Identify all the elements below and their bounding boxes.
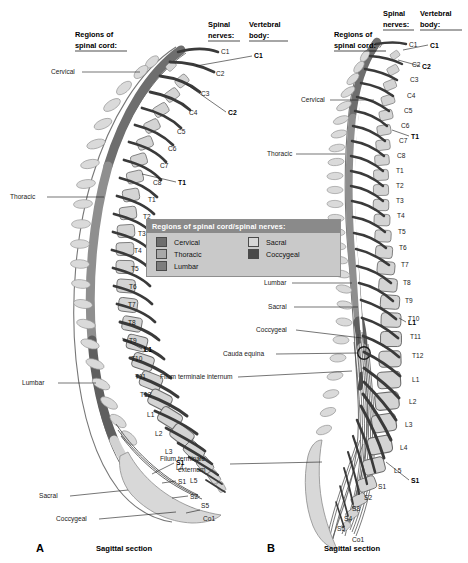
nerve-label-t2-b: T2 <box>396 182 404 189</box>
nerve-label-t8-a: T8 <box>128 319 136 326</box>
legend-label-sacral: Sacral <box>266 238 286 247</box>
nerve-label-c6-b: C6 <box>401 122 410 129</box>
nerve-label-t7-a: T7 <box>128 301 136 308</box>
heading-nerves-a-line2: nerves: <box>208 31 234 40</box>
region-label-cervical-b: Cervical <box>301 96 325 103</box>
legend-label-thoracic: Thoracic <box>174 250 202 259</box>
figure-svg: Regions of spinal cord: Spinal nerves: V… <box>0 0 468 563</box>
legend-label-lumbar: Lumbar <box>174 262 198 271</box>
nerve-label-c1-b: C1 <box>409 41 418 48</box>
nerve-label-t8-b: T8 <box>403 279 411 286</box>
nerve-label-c4-a: C4 <box>189 109 198 116</box>
vertebra-label-t1-a: T1 <box>178 179 186 186</box>
nerve-label-t4-b: T4 <box>397 212 405 219</box>
heading-regions-a-line2: spinal cord: <box>75 41 117 50</box>
vertebra-label-c2-b: C2 <box>422 63 431 70</box>
panel-caption-a: Sagittal section <box>96 544 152 553</box>
nerve-label-c3-a: C3 <box>201 90 210 97</box>
nerve-label-t12-a: T12 <box>140 391 152 398</box>
heading-nerves-b-line1: Spinal <box>383 9 405 18</box>
nerve-label-c7-a: C7 <box>160 162 169 169</box>
nerve-label-t10-a: T10 <box>131 355 143 362</box>
legend-item-lumbar: Lumbar <box>156 261 236 271</box>
nerve-label-t5-b: T5 <box>398 228 406 235</box>
vertebra-label-l1-b: L1 <box>408 319 416 326</box>
nerve-label-t6-b: T6 <box>399 244 407 251</box>
nerve-label-c2-a: C2 <box>216 70 225 77</box>
nerve-label-t4-a: T4 <box>134 247 142 254</box>
structure-label-filum-externum-line1: Filum terminale <box>160 455 205 462</box>
region-label-thoracic-a: Thoracic <box>10 193 36 200</box>
vertebra-label-c2-a: C2 <box>228 109 237 116</box>
nerve-label-s3-b: S3 <box>352 505 360 512</box>
legend-grid: Cervical Sacral Thoracic Coccygeal Lumba… <box>147 233 340 276</box>
heading-vertebral-b-line1: Vertebral <box>420 9 452 18</box>
nerve-label-t9-b: T9 <box>405 297 413 304</box>
nerve-label-c7-b: C7 <box>399 137 408 144</box>
nerve-label-t3-a: T3 <box>138 230 146 237</box>
heading-vertebral-a-line2: body: <box>249 31 269 40</box>
nerve-label-t11-b: T11 <box>410 333 421 340</box>
structure-label-filum-internum-b: Filum terminale internum <box>160 373 233 380</box>
heading-regions-a-line1: Regions of <box>75 30 114 39</box>
structure-label-cauda-equina-b: Cauda equina <box>223 350 264 358</box>
nerve-label-l3-b: L3 <box>405 421 413 428</box>
region-label-lumbar-b: Lumbar <box>264 279 287 286</box>
legend-title: Regions of spinal cord/spinal nerves: <box>147 220 340 233</box>
nerve-label-s1-b: S1 <box>378 483 386 490</box>
vertebra-label-t1-b: T1 <box>411 133 419 140</box>
legend-label-cervical: Cervical <box>174 238 200 247</box>
region-label-sacral-b: Sacral <box>268 303 287 310</box>
legend-swatch-coccygeal <box>248 249 259 259</box>
legend-item-thoracic: Thoracic <box>156 249 236 259</box>
nerve-label-c4-b: C4 <box>407 92 416 99</box>
legend-item-coccygeal: Coccygeal <box>248 249 334 259</box>
vertebra-label-s1-b: S1 <box>411 477 420 484</box>
vertebra-label-l1-a: L1 <box>144 346 152 353</box>
nerve-label-l4-b: L4 <box>400 444 408 451</box>
nerve-label-co1-a: Co1 <box>203 515 215 522</box>
nerve-label-c3-b: C3 <box>410 76 419 83</box>
heading-vertebral-a-line1: Vertebral <box>249 20 281 29</box>
nerve-label-c8-b: C8 <box>397 152 406 159</box>
nerve-label-l1-a: L1 <box>147 411 155 418</box>
region-label-sacral-a: Sacral <box>39 492 58 499</box>
region-label-cervical-a: Cervical <box>51 68 75 75</box>
vertebra-label-c1-a: C1 <box>254 52 263 59</box>
panel-letter-b: B <box>267 542 275 554</box>
nerve-label-t5-a: T5 <box>131 265 139 272</box>
nerve-label-co1-b: Co1 <box>352 536 364 543</box>
heading-vertebral-b-line2: body: <box>420 20 440 29</box>
heading-regions-b-line1: Regions of <box>334 30 373 39</box>
vertebra-label-c1-b: C1 <box>430 42 439 49</box>
legend-item-cervical: Cervical <box>156 237 236 247</box>
nerve-label-s2-b: S2 <box>364 494 372 501</box>
nerve-label-c6-a: C6 <box>168 145 177 152</box>
nerve-label-l2-a: L2 <box>155 430 163 437</box>
nerve-label-t11-a: T11 <box>135 373 146 380</box>
nerve-label-l5-b: L5 <box>394 467 402 474</box>
region-label-coccygeal-b: Coccygeal <box>256 326 287 334</box>
nerve-label-s2-a: S2 <box>190 493 198 500</box>
nerve-label-l3-a: L3 <box>165 448 173 455</box>
region-label-lumbar-a: Lumbar <box>22 379 45 386</box>
nerve-label-t12-b: T12 <box>412 352 424 359</box>
nerve-label-t6-a: T6 <box>129 283 137 290</box>
nerve-label-s4-b: S4 <box>344 515 352 522</box>
heading-nerves-a-line1: Spinal <box>208 20 230 29</box>
structure-label-filum-externum-line2: externum <box>178 466 206 473</box>
nerve-label-c1-a: C1 <box>221 48 230 55</box>
nerve-label-l1-b: L1 <box>412 376 420 383</box>
region-label-thoracic-b: Thoracic <box>267 150 293 157</box>
spinal-cord-figure: Regions of spinal cord: Spinal nerves: V… <box>0 0 468 563</box>
nerve-label-l2-b: L2 <box>409 398 417 405</box>
nerve-label-c8-a: C8 <box>153 179 162 186</box>
heading-nerves-b-line2: nerves: <box>383 20 409 29</box>
legend-swatch-thoracic <box>156 249 167 259</box>
panel-caption-b: Sagittal section <box>324 544 380 553</box>
legend-item-sacral: Sacral <box>248 237 334 247</box>
nerve-label-t1-b: T1 <box>396 167 404 174</box>
legend-label-coccygeal: Coccygeal <box>266 250 300 259</box>
legend-swatch-lumbar <box>156 261 167 271</box>
legend-swatch-sacral <box>248 237 259 247</box>
